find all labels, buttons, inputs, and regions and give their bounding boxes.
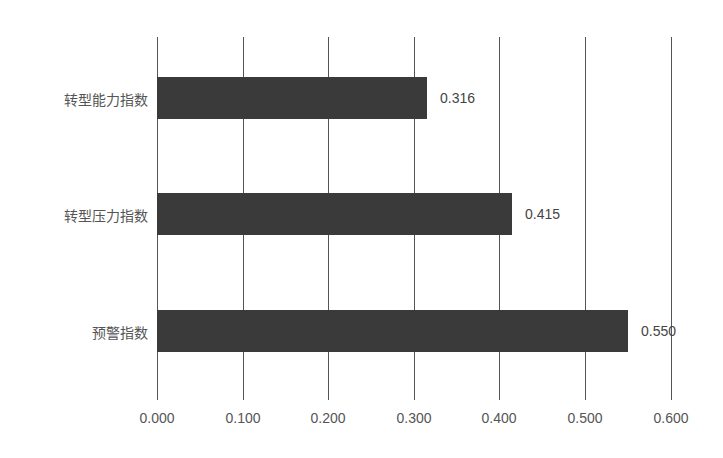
bar <box>157 310 628 352</box>
x-tick-label: 0.100 <box>225 410 260 426</box>
x-tick-label: 0.000 <box>139 410 174 426</box>
category-label: 预警指数 <box>92 322 148 342</box>
gridline <box>671 37 672 400</box>
category-label: 转型压力指数 <box>64 205 148 225</box>
value-label: 0.415 <box>525 206 560 222</box>
x-tick-label: 0.200 <box>310 410 345 426</box>
value-label: 0.550 <box>641 323 676 339</box>
bar <box>157 77 427 119</box>
bar <box>157 193 512 235</box>
x-tick-label: 0.500 <box>567 410 602 426</box>
x-tick-label: 0.600 <box>653 410 688 426</box>
x-tick-label: 0.300 <box>396 410 431 426</box>
x-tick-label: 0.400 <box>481 410 516 426</box>
value-label: 0.316 <box>440 90 475 106</box>
horizontal-bar-chart: 转型能力指数0.316转型压力指数0.415预警指数0.550 0.0000.1… <box>0 0 723 458</box>
category-label: 转型能力指数 <box>64 89 148 109</box>
